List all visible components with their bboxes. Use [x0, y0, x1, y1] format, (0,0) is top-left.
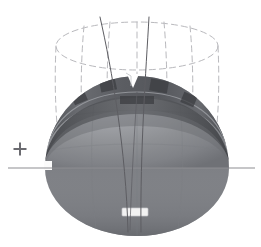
origin-crosshair[interactable]	[14, 143, 27, 156]
model-viewport[interactable]: Hemispherical dome 3D model + Shaded gra…	[0, 0, 261, 247]
dome-base-notch	[122, 208, 148, 216]
scene-canvas[interactable]	[0, 0, 261, 247]
dome-left-notch	[44, 161, 52, 170]
